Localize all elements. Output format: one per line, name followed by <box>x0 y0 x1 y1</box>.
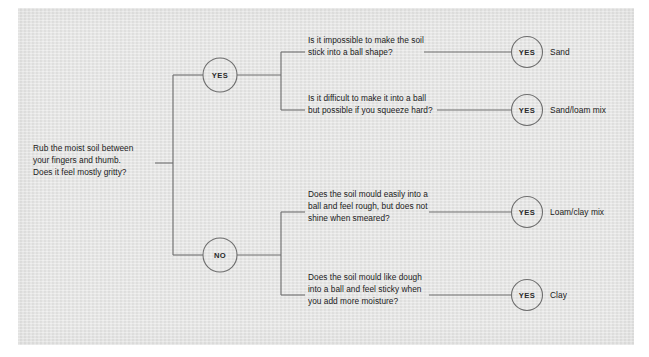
branch-answer-3: YES <box>508 208 546 217</box>
root-question-text: Rub the moist soil between your fingers … <box>33 142 173 178</box>
branch-outcome-3: Loam/clay mix <box>550 207 604 217</box>
branch-outcome-1: Sand <box>550 47 570 57</box>
branch-answer-4: YES <box>508 291 546 300</box>
decision-node-yes: YES <box>200 71 240 80</box>
branch-question-4: Does the soil mould like dough into a ba… <box>308 271 498 307</box>
branch-question-1: Is it impossible to make the soil stick … <box>308 34 498 58</box>
branch-answer-2: YES <box>508 106 546 115</box>
branch-answer-1: YES <box>508 48 546 57</box>
decision-node-no: NO <box>200 251 240 260</box>
branch-question-2: Is it difficult to make it into a ball b… <box>308 92 498 116</box>
branch-outcome-2: Sand/loam mix <box>550 105 606 115</box>
flowchart-root: Rub the moist soil between your fingers … <box>0 0 649 357</box>
branch-outcome-4: Clay <box>550 290 567 300</box>
branch-question-3: Does the soil mould easily into a ball a… <box>308 188 498 224</box>
